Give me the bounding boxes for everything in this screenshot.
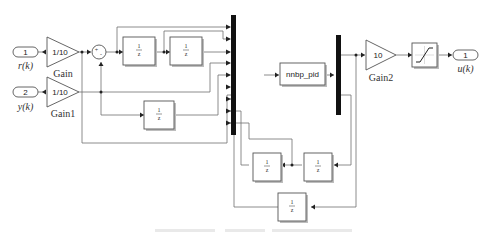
mux-block[interactable] (231, 15, 236, 135)
denominator: z (158, 115, 161, 121)
inport-signal-label: r(k) (18, 60, 34, 72)
denominator: z (291, 207, 294, 213)
numerator: 1 (291, 199, 294, 205)
unit-delay-2[interactable]: 1 z (170, 37, 204, 67)
inport-y[interactable]: 2 y(k) (13, 87, 38, 113)
minus-sign: - (100, 51, 102, 57)
unit-delay-1[interactable]: 1 z (123, 37, 157, 67)
unit-delay-6[interactable]: 1 z (278, 193, 308, 223)
gain-value: 1/10 (52, 48, 68, 57)
denominator: z (185, 51, 188, 57)
unit-delay-4[interactable]: 1 z (253, 153, 283, 183)
gain-block[interactable]: 1/10 Gain (47, 37, 79, 79)
gain-name: Gain2 (369, 72, 393, 83)
numerator: 1 (158, 107, 161, 113)
faded-caption (155, 229, 352, 232)
outport-u[interactable]: 1 u(k) (453, 50, 478, 75)
gain1-block[interactable]: 1/10 Gain1 (47, 77, 79, 119)
gain-value: 10 (374, 51, 383, 60)
inport-r[interactable]: 1 r(k) (13, 47, 38, 72)
numerator: 1 (138, 43, 141, 49)
saturation-block[interactable] (412, 43, 439, 69)
gain-name: Gain1 (51, 108, 75, 119)
unit-delay-3[interactable]: 1 z (144, 101, 176, 131)
inport-signal-label: y(k) (17, 101, 34, 113)
unit-delay-5[interactable]: 1 z (304, 153, 334, 183)
numerator: 1 (185, 43, 188, 49)
sum-block[interactable]: + - (92, 45, 106, 59)
subsystem-name: nnbp_pid (286, 70, 319, 79)
inport-number: 1 (23, 48, 28, 57)
denominator: z (317, 167, 320, 173)
denominator: z (266, 167, 269, 173)
numerator: 1 (266, 159, 269, 165)
denominator: z (138, 51, 141, 57)
outport-signal-label: u(k) (457, 63, 474, 75)
numerator: 1 (317, 159, 320, 165)
gain2-block[interactable]: 10 Gain2 (366, 40, 396, 83)
gain-name: Gain (53, 68, 72, 79)
outport-number: 1 (463, 51, 468, 60)
nnbp-pid-subsystem[interactable]: nnbp_pid (280, 63, 327, 87)
demux-block[interactable] (336, 35, 341, 115)
inport-number: 2 (23, 88, 28, 97)
gain-value: 1/10 (52, 88, 68, 97)
